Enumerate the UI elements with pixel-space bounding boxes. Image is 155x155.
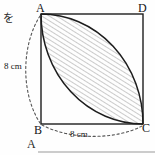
- vertex-label-d: D: [138, 2, 147, 14]
- shaded-lens-region: [41, 14, 143, 124]
- dimension-arc-bottom: [42, 125, 142, 136]
- kana-annotation: を: [3, 13, 14, 24]
- next-item-label: A: [27, 138, 36, 150]
- vertex-label-c: C: [142, 122, 150, 134]
- vertex-label-b: B: [34, 124, 42, 136]
- vertex-label-a: A: [36, 2, 45, 14]
- dimension-label-left: 8 cm: [4, 62, 22, 71]
- dimension-arc-left: [26, 16, 40, 123]
- geometry-figure: A D B C 8 cm 8 cm を A: [0, 0, 155, 155]
- dimension-label-bottom: 8 cm: [70, 130, 88, 139]
